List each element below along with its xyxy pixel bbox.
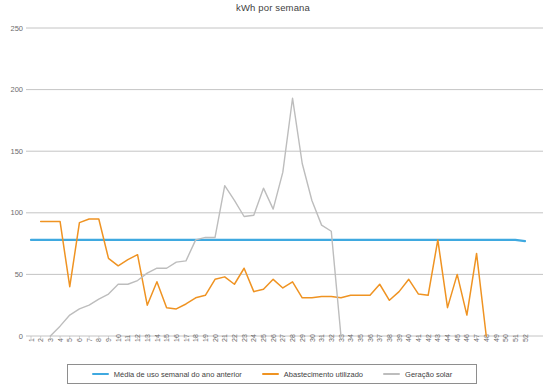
series-line-1 [41, 219, 487, 336]
y-axis-tick-label: 200 [10, 85, 23, 94]
x-axis-tick-label: 4 [57, 338, 64, 342]
x-axis-tick-label: 13 [144, 334, 151, 342]
y-axis-tick-label: 250 [10, 24, 23, 33]
x-axis-tick-label: 18 [192, 334, 199, 342]
legend-swatch-icon [262, 373, 279, 375]
legend-swatch-icon [383, 373, 400, 375]
x-axis-tick-label: 2 [37, 338, 44, 342]
x-axis-tick-label: 42 [425, 334, 432, 342]
series-line-2 [50, 98, 341, 336]
x-axis-tick-label: 25 [260, 334, 267, 342]
x-axis-tick-label: 17 [183, 334, 190, 342]
x-axis-tick-label: 38 [386, 334, 393, 342]
x-axis-tick-label: 50 [502, 334, 509, 342]
x-axis-tick-label: 8 [95, 338, 102, 342]
x-axis-tick-label: 21 [221, 334, 228, 342]
x-axis-tick-label: 52 [522, 334, 529, 342]
x-axis-tick-label: 36 [367, 334, 374, 342]
x-axis-tick-label: 47 [473, 334, 480, 342]
y-axis-tick-label: 150 [10, 147, 23, 156]
x-axis-tick-label: 46 [463, 334, 470, 342]
legend-item-label: Média de uso semanal do ano anterior [114, 370, 242, 379]
legend-item-label: Abastecimento utilizado [284, 370, 363, 379]
legend-item-label: Geração solar [405, 370, 452, 379]
x-axis-tick-label: 6 [76, 338, 83, 342]
x-axis-tick-label: 49 [493, 334, 500, 342]
chart-container: kWh por semana 0501001502002501234567891… [0, 0, 546, 392]
x-axis-tick-label: 23 [241, 334, 248, 342]
x-axis-tick-label: 34 [347, 334, 354, 342]
x-axis-tick-label: 43 [434, 334, 441, 342]
x-axis-tick-label: 30 [309, 334, 316, 342]
x-axis-tick-label: 35 [357, 334, 364, 342]
x-axis-tick-label: 9 [105, 338, 112, 342]
x-axis-tick-label: 20 [212, 334, 219, 342]
x-axis-tick-label: 14 [154, 334, 161, 342]
x-axis-tick-label: 19 [202, 334, 209, 342]
x-axis-tick-label: 24 [250, 334, 257, 342]
x-axis-tick-label: 45 [454, 334, 461, 342]
x-axis-tick-label: 22 [231, 334, 238, 342]
x-axis-tick-label: 37 [376, 334, 383, 342]
x-axis-tick-label: 15 [163, 334, 170, 342]
y-axis-tick-label: 100 [10, 208, 23, 217]
x-axis-tick-label: 11 [124, 335, 131, 342]
x-axis-tick-label: 12 [134, 334, 141, 342]
x-axis-tick-label: 10 [115, 334, 122, 342]
x-axis-tick-label: 27 [279, 334, 286, 342]
x-axis-tick-label: 5 [66, 338, 73, 342]
series-line-0 [31, 240, 525, 241]
chart-plot-area: 0501001502002501234567891011121314151617… [0, 0, 546, 392]
x-axis-tick-label: 3 [47, 338, 54, 342]
chart-legend: Média de uso semanal do ano anteriorAbas… [67, 364, 477, 384]
x-axis-tick-label: 29 [299, 334, 306, 342]
y-axis-tick-label: 50 [15, 270, 23, 279]
legend-item-1[interactable]: Abastecimento utilizado [262, 370, 363, 379]
x-axis-tick-label: 1 [28, 338, 35, 342]
x-axis-tick-label: 26 [270, 334, 277, 342]
legend-item-0[interactable]: Média de uso semanal do ano anterior [92, 370, 242, 379]
legend-item-2[interactable]: Geração solar [383, 370, 452, 379]
x-axis-tick-label: 28 [289, 334, 296, 342]
x-axis-tick-label: 51 [512, 334, 519, 342]
x-axis-tick-label: 44 [444, 334, 451, 342]
x-axis-tick-label: 40 [405, 334, 412, 342]
x-axis-tick-label: 32 [328, 334, 335, 342]
x-axis-tick-label: 31 [318, 334, 325, 342]
x-axis-tick-label: 39 [396, 334, 403, 342]
x-axis-tick-label: 7 [86, 338, 93, 342]
x-axis-tick-label: 41 [415, 334, 422, 342]
y-axis-tick-label: 0 [19, 332, 23, 341]
legend-swatch-icon [92, 373, 109, 375]
x-axis-tick-label: 16 [173, 334, 180, 342]
